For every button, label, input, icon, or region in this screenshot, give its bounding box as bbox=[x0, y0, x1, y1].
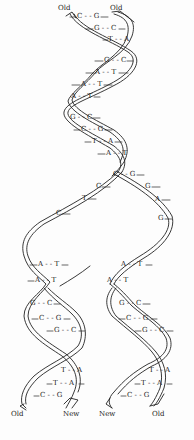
base-pair: C - - G bbox=[81, 126, 103, 133]
unpaired-base-left: C bbox=[56, 210, 61, 217]
base-pair: C - - G bbox=[77, 13, 99, 20]
base-pair: G - - C bbox=[54, 327, 76, 334]
label-top-right-old: Old bbox=[110, 5, 122, 12]
base-pair: A - - T bbox=[38, 261, 59, 268]
base-pair: T - - A bbox=[108, 36, 129, 43]
label-top-left-old: Old bbox=[58, 5, 70, 12]
base-pair: A - - T bbox=[121, 261, 142, 268]
label-bottom-new-1: New bbox=[63, 411, 79, 418]
base-pair: A - - T bbox=[106, 150, 127, 157]
base-pair: T - - A bbox=[61, 367, 82, 374]
unpaired-base-right: A bbox=[155, 196, 160, 203]
base-pair: A - - T bbox=[95, 69, 116, 76]
base-pair: A - - T bbox=[35, 277, 56, 284]
unpaired-base-right: G bbox=[145, 183, 151, 190]
base-pair: A - - T bbox=[81, 81, 102, 88]
base-pair: C - - G bbox=[127, 392, 149, 399]
base-pair: A - - T bbox=[107, 277, 128, 284]
base-pair: A - - T bbox=[71, 93, 92, 100]
base-pair: T - - A bbox=[53, 380, 74, 387]
base-pair: G - - C bbox=[30, 300, 52, 307]
unpaired-base-right: G bbox=[158, 215, 164, 222]
label-bottom-old-1: Old bbox=[11, 411, 23, 418]
base-pair: T - - A bbox=[141, 380, 162, 387]
unpaired-base-left: T bbox=[82, 195, 87, 202]
base-pair: G - - C bbox=[142, 327, 164, 334]
base-pair: G - - C bbox=[104, 57, 126, 64]
base-pair: C - - G bbox=[126, 315, 148, 322]
base-pair: T - - A bbox=[92, 138, 113, 145]
label-bottom-new-2: New bbox=[99, 411, 115, 418]
base-pair: G - - C bbox=[94, 25, 116, 32]
base-pair: G - - C bbox=[119, 300, 141, 307]
unpaired-base-left: C bbox=[96, 183, 101, 190]
fork-base-pair: C - - G bbox=[113, 171, 135, 178]
base-pair: T - - A bbox=[149, 367, 170, 374]
base-pair: G - - C bbox=[70, 114, 92, 121]
base-pair: C - - G bbox=[39, 315, 61, 322]
dna-replication-diagram: Old Old Old New New Old C - - G G - - C … bbox=[0, 0, 194, 440]
helix-ribbons bbox=[0, 0, 194, 440]
base-pair: C - - G bbox=[40, 392, 62, 399]
label-bottom-old-2: Old bbox=[152, 411, 164, 418]
